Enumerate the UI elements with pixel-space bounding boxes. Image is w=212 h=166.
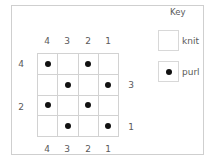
purl-dot-icon: [85, 102, 91, 108]
purl-dot-icon: [65, 123, 71, 129]
stitch-cell-knit: [58, 54, 78, 75]
stitch-cell-purl: [38, 54, 58, 75]
key-title: Key: [170, 7, 185, 17]
stitch-grid: [37, 53, 119, 137]
column-label-top-1: 1: [102, 37, 114, 46]
column-label-top-3: 3: [61, 37, 73, 46]
column-label-bottom-2: 2: [82, 145, 94, 154]
column-label-top-2: 2: [82, 37, 94, 46]
purl-dot-icon: [105, 82, 111, 88]
key-knit-label: knit: [182, 36, 199, 46]
purl-dot-icon: [45, 61, 51, 67]
stitch-cell-purl: [79, 96, 99, 117]
stitch-cell-purl: [58, 75, 78, 96]
stitch-cell-knit: [99, 54, 119, 75]
column-label-bottom-4: 4: [41, 145, 53, 154]
stitch-cell-purl: [38, 96, 58, 117]
purl-dot-icon: [65, 82, 71, 88]
purl-dot-icon: [166, 69, 172, 75]
key-knit-symbol: [158, 30, 179, 51]
purl-dot-icon: [45, 102, 51, 108]
row-label-left-4: 4: [15, 60, 27, 69]
stitch-cell-knit: [58, 96, 78, 117]
stitch-cell-purl: [79, 54, 99, 75]
stitch-cell-knit: [99, 96, 119, 117]
stitch-cell-knit: [79, 116, 99, 137]
key-purl-label: purl: [182, 67, 200, 77]
stitch-cell-purl: [99, 75, 119, 96]
stitch-cell-purl: [99, 116, 119, 137]
key-purl-symbol: [158, 61, 179, 82]
row-label-left-2: 2: [15, 103, 27, 112]
purl-dot-icon: [105, 123, 111, 129]
stitch-cell-knit: [38, 75, 58, 96]
row-label-right-3: 3: [125, 81, 137, 90]
column-label-top-4: 4: [41, 37, 53, 46]
column-label-bottom-1: 1: [102, 145, 114, 154]
stitch-cell-knit: [38, 116, 58, 137]
stitch-cell-purl: [58, 116, 78, 137]
purl-dot-icon: [85, 61, 91, 67]
row-label-right-1: 1: [125, 123, 137, 132]
stitch-cell-knit: [79, 75, 99, 96]
column-label-bottom-3: 3: [61, 145, 73, 154]
